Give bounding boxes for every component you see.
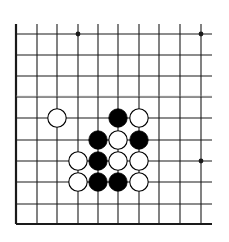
black-stone xyxy=(109,109,127,127)
star-point xyxy=(199,159,204,164)
black-stone xyxy=(109,173,127,191)
white-stone xyxy=(69,152,87,170)
white-stone xyxy=(130,152,148,170)
star-point xyxy=(76,32,81,37)
white-stone xyxy=(130,173,148,191)
go-board xyxy=(0,0,229,242)
black-stone xyxy=(89,131,107,149)
black-stone xyxy=(89,152,107,170)
white-stone xyxy=(109,152,127,170)
black-stone xyxy=(89,173,107,191)
white-stone xyxy=(69,173,87,191)
black-stone xyxy=(130,131,148,149)
white-stone xyxy=(130,109,148,127)
white-stone xyxy=(48,109,66,127)
white-stone xyxy=(109,131,127,149)
star-point xyxy=(199,32,204,37)
